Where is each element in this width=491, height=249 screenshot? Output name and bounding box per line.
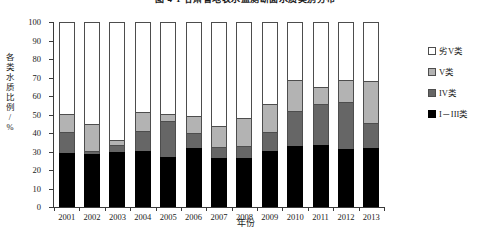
bar-column bbox=[236, 22, 252, 207]
figure-title: 图 4-1 甘肃省地表水监测断面水质类别分布 bbox=[0, 0, 491, 4]
y-axis-title: 各类水质比例/% bbox=[4, 52, 16, 132]
x-axis-line bbox=[53, 207, 384, 208]
bar-segment bbox=[59, 153, 75, 207]
bar-series-group bbox=[54, 22, 384, 207]
bar-segment bbox=[338, 149, 354, 207]
x-tick-mark bbox=[282, 207, 283, 211]
bar-segment bbox=[160, 157, 176, 207]
y-tick-label: 40 bbox=[33, 129, 42, 138]
bar-segment bbox=[135, 151, 151, 207]
x-tick-mark bbox=[333, 207, 334, 211]
chart-legend: 劣V类V类IV类I－III类 bbox=[428, 46, 468, 130]
white-swatch bbox=[428, 47, 436, 55]
x-tick-mark bbox=[181, 207, 182, 211]
y-tick-label: 10 bbox=[33, 184, 42, 193]
y-axis-title-char: 类 bbox=[4, 62, 16, 72]
bar-segment bbox=[236, 158, 252, 207]
x-tick-mark bbox=[130, 207, 131, 211]
y-tick-label: 60 bbox=[33, 92, 42, 101]
legend-item: V类 bbox=[428, 67, 468, 77]
legend-item: 劣V类 bbox=[428, 46, 468, 56]
x-tick-mark bbox=[232, 207, 233, 211]
bar-column bbox=[135, 22, 151, 207]
x-tick-mark bbox=[308, 207, 309, 211]
plot-area: 0102030405060708090100 20012002200320042… bbox=[54, 22, 384, 207]
x-tick-mark bbox=[54, 207, 55, 211]
bar-segment bbox=[313, 145, 329, 207]
y-axis-title-char: 各 bbox=[4, 52, 16, 62]
y-tick-label: 70 bbox=[33, 73, 42, 82]
legend-label: V类 bbox=[439, 67, 454, 77]
bar-segment bbox=[84, 154, 100, 207]
x-tick-mark bbox=[359, 207, 360, 211]
y-axis-title-char: 例 bbox=[4, 102, 16, 112]
y-axis-title-char: 比 bbox=[4, 92, 16, 102]
x-tick-mark bbox=[105, 207, 106, 211]
bar-segment bbox=[186, 148, 202, 207]
bar-column bbox=[287, 22, 303, 207]
chart-figure: 图 4-1 甘肃省地表水监测断面水质类别分布 各类水质比例/% 01020304… bbox=[0, 0, 491, 249]
x-tick-mark bbox=[206, 207, 207, 211]
x-tick-mark bbox=[79, 207, 80, 211]
y-tick-label: 30 bbox=[33, 147, 42, 156]
bar-column bbox=[211, 22, 227, 207]
black-swatch bbox=[428, 110, 436, 118]
bar-column bbox=[109, 22, 125, 207]
y-tick-label: 90 bbox=[33, 36, 42, 45]
x-tick-mark bbox=[156, 207, 157, 211]
legend-label: 劣V类 bbox=[439, 46, 463, 56]
x-tick-mark bbox=[384, 207, 385, 211]
bar-column bbox=[160, 22, 176, 207]
bar-column bbox=[59, 22, 75, 207]
bar-column bbox=[313, 22, 329, 207]
bar-column bbox=[84, 22, 100, 207]
dark-gray-swatch bbox=[428, 89, 436, 97]
bar-segment bbox=[287, 146, 303, 207]
y-tick-label: 0 bbox=[37, 203, 41, 212]
bar-column bbox=[338, 22, 354, 207]
bar-column bbox=[186, 22, 202, 207]
legend-label: IV类 bbox=[439, 88, 457, 98]
bar-column bbox=[363, 22, 379, 207]
bar-segment bbox=[211, 158, 227, 207]
bar-segment bbox=[363, 148, 379, 207]
y-tick-label: 50 bbox=[33, 110, 42, 119]
bar-segment bbox=[109, 152, 125, 207]
bar-segment bbox=[262, 151, 278, 207]
x-axis-title: 年份 bbox=[0, 216, 491, 229]
y-tick-label: 100 bbox=[28, 18, 41, 27]
y-tick-label: 80 bbox=[33, 55, 42, 64]
x-tick-mark bbox=[257, 207, 258, 211]
y-tick-label: 20 bbox=[33, 166, 42, 175]
bar-column bbox=[262, 22, 278, 207]
y-axis-title-char: % bbox=[4, 122, 16, 132]
y-axis-title-char: 质 bbox=[4, 82, 16, 92]
legend-item: I－III类 bbox=[428, 109, 468, 119]
legend-item: IV类 bbox=[428, 88, 468, 98]
light-gray-swatch bbox=[428, 68, 436, 76]
y-axis-title-char: 水 bbox=[4, 72, 16, 82]
legend-label: I－III类 bbox=[439, 109, 468, 119]
y-axis-title-char: / bbox=[4, 112, 16, 122]
